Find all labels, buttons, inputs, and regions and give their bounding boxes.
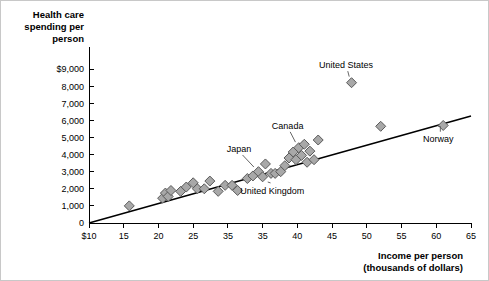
data-point (124, 201, 134, 211)
y-tick-label: $9,000 (56, 64, 84, 74)
y-tick-label: 5,000 (61, 133, 84, 143)
annotation-label: United States (319, 60, 374, 70)
svg-text:(thousands of dollars): (thousands of dollars) (363, 262, 463, 273)
annotation-label: Japan (227, 144, 252, 154)
x-tick-label: 15 (119, 231, 129, 241)
annotation-leader-line (438, 126, 440, 131)
y-tick-label: 2,000 (61, 184, 84, 194)
y-tick-label: 4,000 (61, 150, 84, 160)
x-tick-label: 35 (258, 231, 268, 241)
x-tick-label: 40 (292, 231, 302, 241)
annotation-leader-line (348, 71, 349, 76)
data-point (347, 78, 357, 88)
svg-text:Health care: Health care (33, 9, 84, 20)
data-point (260, 159, 270, 169)
chart-figure: Health care spending per person Income p… (0, 0, 489, 281)
data-point (438, 120, 448, 130)
x-tick-label: 50 (362, 231, 372, 241)
data-point (205, 176, 215, 186)
y-tick-label: 3,000 (61, 167, 84, 177)
x-tick-label: $10 (81, 231, 96, 241)
y-axis-ticks: $9,0008,0007,0006,0005,0004,0003,0002,00… (56, 64, 94, 228)
x-axis-ticks: $101520253535404550556065 (81, 223, 476, 241)
x-tick-label: 65 (466, 231, 476, 241)
x-axis-title: Income per person (thousands of dollars) (363, 250, 463, 273)
scatter-plot: Health care spending per person Income p… (1, 1, 489, 281)
y-axis-title: Health care spending per person (24, 9, 84, 44)
data-point (313, 135, 323, 145)
svg-text:Income per person: Income per person (378, 250, 463, 261)
x-tick-label: 25 (188, 231, 198, 241)
x-tick-label: 45 (327, 231, 337, 241)
svg-text:spending per: spending per (24, 21, 84, 32)
data-point (376, 121, 386, 131)
y-tick-label: 7,000 (61, 99, 84, 109)
y-tick-label: 0 (79, 218, 84, 228)
annotation-label: United Kingdom (240, 186, 304, 196)
x-tick-label: 20 (153, 231, 163, 241)
annotation-label: Norway (423, 134, 454, 144)
y-tick-label: 1,000 (61, 201, 84, 211)
x-tick-label: 60 (431, 231, 441, 241)
y-tick-label: 8,000 (61, 82, 84, 92)
x-tick-label: 35 (223, 231, 233, 241)
svg-text:person: person (52, 33, 84, 44)
annotation-leader-line (290, 132, 295, 142)
annotation-label: Canada (272, 121, 304, 131)
y-tick-label: 6,000 (61, 116, 84, 126)
x-tick-label: 55 (397, 231, 407, 241)
annotation-leader-line (268, 182, 271, 183)
annotation-leader-line (243, 155, 254, 167)
